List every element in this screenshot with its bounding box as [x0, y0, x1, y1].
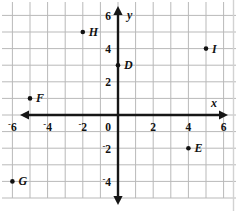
y-tick-label-4: 4 — [105, 43, 111, 55]
point-dot-H — [81, 30, 86, 35]
y-tick-label-6: 6 — [105, 10, 111, 22]
x-tick-label-4: 4 — [186, 121, 192, 133]
point-dot-F — [28, 96, 33, 101]
point-label-G: G — [18, 174, 27, 188]
x-axis-name: x — [210, 96, 217, 110]
x-tick-label--4: -4 — [43, 119, 52, 133]
point-label-D: D — [123, 58, 133, 72]
x-tick-label--4-digits: 4 — [46, 121, 52, 133]
y-tick-label--2-digits: 2 — [105, 143, 111, 155]
x-tick-label--6-digits: 6 — [11, 121, 17, 133]
point-dot-I — [204, 46, 209, 51]
x-tick-label--6: -6 — [8, 119, 17, 133]
x-tick-label--2: -2 — [79, 119, 88, 133]
coordinate-plane-svg: -6-4-20246642-2-4 HIDFEG xy — [0, 0, 250, 211]
y-tick-label--2: -2 — [102, 141, 111, 155]
point-dot-E — [186, 146, 191, 151]
y-tick-label-2: 2 — [105, 76, 111, 88]
x-axis-arrow-left — [20, 110, 29, 119]
axes — [20, 6, 228, 205]
x-tick-label-6: 6 — [221, 121, 227, 133]
y-axis-arrow-down — [113, 196, 122, 205]
point-dot-D — [116, 63, 121, 68]
point-label-H: H — [88, 25, 99, 39]
y-tick-label--4-digits: 4 — [105, 176, 111, 188]
x-tick-label-0: 0 — [105, 121, 111, 133]
y-axis-name: y — [125, 8, 133, 22]
x-tick-label-2: 2 — [150, 121, 156, 133]
point-label-F: F — [35, 91, 44, 105]
point-label-E: E — [193, 141, 202, 155]
y-axis-arrow-up — [113, 6, 122, 15]
point-dot-G — [10, 179, 15, 184]
x-tick-label--2-digits: 2 — [81, 121, 87, 133]
coordinate-plane-figure: -6-4-20246642-2-4 HIDFEG xy — [0, 0, 250, 211]
plotted-points: HIDFEG — [10, 25, 218, 188]
y-tick-label--4: -4 — [102, 174, 111, 188]
